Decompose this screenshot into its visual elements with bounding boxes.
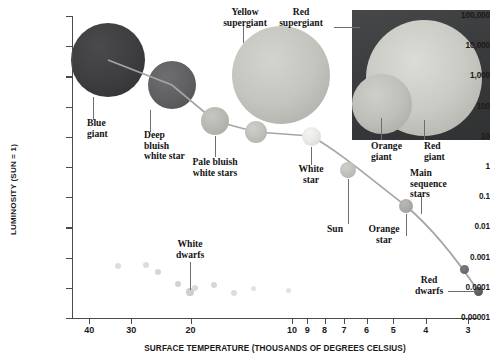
y-tick-mark	[66, 137, 72, 138]
y-tick-mark	[66, 16, 72, 17]
y-axis-title: LUMINOSITY (SUN = 1)	[9, 125, 18, 255]
label-orange-giant: Orange giant	[371, 141, 402, 162]
x-tick-mark	[393, 318, 394, 324]
leader-red-giant	[424, 120, 425, 140]
y-tick-label: 100	[426, 102, 490, 111]
white-dwarf-point	[251, 286, 256, 291]
y-tick-mark	[66, 46, 72, 47]
leader-white-dwarfs	[190, 262, 191, 290]
label-sun: Sun	[327, 224, 343, 235]
x-axis-title: SURFACE TEMPERATURE (THOUSANDS OF DEGREE…	[72, 344, 478, 353]
node-orange-star	[399, 199, 413, 213]
node-red-dwarf-1	[460, 265, 469, 274]
y-tick-mark	[66, 318, 72, 319]
white-dwarf-point	[231, 290, 237, 296]
node-pale-bluish-white-1	[201, 107, 229, 135]
x-tick-label: 3	[456, 325, 480, 335]
label-red-giant: Red giant	[424, 141, 445, 162]
y-tick-label: 10	[426, 132, 490, 141]
x-axis-line	[72, 318, 478, 319]
label-blue-giant: Blue giant	[87, 118, 108, 139]
leader-red-supergiant	[334, 27, 360, 28]
hr-diagram: Blue giant Deep bluish white star Yellow…	[0, 0, 490, 364]
label-white-dwarfs: White dwarfs	[158, 239, 222, 260]
x-tick-label: 7	[332, 325, 356, 335]
x-tick-label: 5	[381, 325, 405, 335]
x-tick-label: 30	[119, 325, 143, 335]
y-tick-label: 0.01	[426, 222, 490, 231]
white-dwarf-point	[115, 263, 121, 269]
x-tick-mark	[89, 318, 90, 324]
leader-orange-giant	[381, 118, 382, 140]
y-tick-mark	[66, 288, 72, 289]
x-tick-mark	[344, 318, 345, 324]
y-tick-label: 10,000	[426, 41, 490, 50]
node-sun	[340, 162, 356, 178]
label-orange-star: Orange star	[361, 224, 407, 245]
y-tick-label: 1	[426, 162, 490, 171]
x-tick-mark	[307, 318, 308, 324]
x-tick-mark	[468, 318, 469, 324]
white-dwarf-point	[192, 285, 198, 291]
y-axis-line	[72, 16, 73, 318]
y-tick-mark	[66, 227, 72, 228]
label-white-star: White star	[285, 164, 337, 185]
leader-sun	[348, 179, 349, 224]
x-tick-mark	[292, 318, 293, 324]
x-tick-label: 40	[77, 325, 101, 335]
x-tick-label: 4	[414, 325, 438, 335]
y-tick-label: 100,000	[426, 11, 490, 20]
leader-pale-bluish-white	[215, 136, 216, 157]
x-tick-mark	[367, 318, 368, 324]
y-tick-mark	[66, 197, 72, 198]
y-tick-label: 0.001	[426, 253, 490, 262]
node-pale-bluish-white-2	[245, 121, 267, 143]
y-tick-mark	[66, 167, 72, 168]
label-pale-bluish-white: Pale bluish white stars	[171, 157, 259, 178]
y-tick-label: 0.00001	[426, 313, 490, 322]
node-white-star	[302, 127, 321, 146]
y-tick-mark	[66, 258, 72, 259]
y-tick-mark	[66, 76, 72, 77]
y-tick-mark	[66, 107, 72, 108]
y-tick-label: 0.0001	[426, 283, 490, 292]
x-tick-mark	[325, 318, 326, 324]
white-dwarf-point	[143, 262, 149, 268]
x-tick-mark	[191, 318, 192, 324]
x-tick-label: 20	[179, 325, 203, 335]
x-tick-mark	[131, 318, 132, 324]
white-dwarf-point	[286, 288, 291, 293]
x-tick-label: 6	[355, 325, 379, 335]
y-tick-label: 1,000	[426, 71, 490, 80]
label-red-supergiant: Red supergiant	[268, 7, 334, 28]
y-tick-label: 0.1	[426, 192, 490, 201]
x-tick-mark	[426, 318, 427, 324]
